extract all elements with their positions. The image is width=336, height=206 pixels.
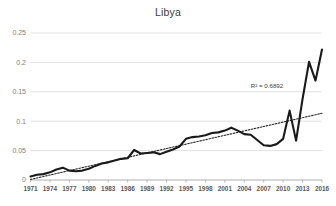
x-tick-label: 2007: [257, 185, 272, 192]
r-squared-label: R² = 0.6892: [251, 82, 284, 89]
y-tick-label: 0.1: [16, 118, 26, 125]
x-tick-label: 2013: [295, 185, 310, 192]
x-tick-label: 1974: [43, 185, 58, 192]
r2-annotation: R² = 0.6892: [251, 82, 284, 89]
x-tick-label: 1992: [159, 185, 174, 192]
x-tick-label: 1995: [179, 185, 194, 192]
y-tick-label: 0.05: [12, 147, 26, 154]
x-tick-label: 2016: [315, 185, 330, 192]
series-line-libya: [31, 49, 323, 176]
x-tick-label: 1977: [62, 185, 77, 192]
y-axis-tick-labels: 00.050.10.150.20.25: [12, 29, 26, 183]
trendline-series: [31, 113, 323, 179]
y-tick-label: 0.25: [12, 29, 26, 36]
y-tick-label: 0: [22, 176, 26, 183]
chart-plot-area: 00.050.10.150.20.25 19711974197719801983…: [0, 0, 336, 206]
y-tick-label: 0.15: [12, 88, 26, 95]
chart-container: Libya 00.050.10.150.20.25 19711974197719…: [0, 0, 336, 206]
x-tick-label: 1998: [198, 185, 213, 192]
x-tick-label: 1986: [121, 185, 136, 192]
x-tick-label: 2004: [237, 185, 252, 192]
x-axis-tick-labels: 1971197419771980198319861989199219951998…: [23, 185, 329, 192]
x-tick-label: 1983: [101, 185, 116, 192]
gridlines: [31, 33, 323, 183]
x-tick-label: 1980: [82, 185, 97, 192]
x-tick-label: 1971: [23, 185, 38, 192]
trendline: [31, 113, 323, 179]
x-tick-label: 2010: [276, 185, 291, 192]
x-tick-label: 1989: [140, 185, 155, 192]
y-tick-label: 0.2: [16, 59, 26, 66]
data-series-line: [31, 49, 323, 176]
x-tick-label: 2001: [218, 185, 233, 192]
